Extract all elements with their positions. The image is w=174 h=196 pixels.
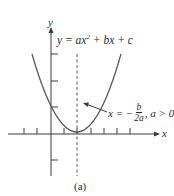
x-axis-label: x	[162, 127, 167, 139]
x-axis-arrow-icon	[154, 132, 160, 137]
equation-label: y = ax2 + bx + c	[57, 33, 133, 46]
fraction-denominator: 2a	[134, 113, 144, 123]
figure-caption: (a)	[74, 180, 86, 192]
fraction: b 2a	[134, 102, 144, 123]
axis-of-symmetry-label: x = − b 2a , a > 0	[108, 102, 174, 123]
annotation-arrowhead-icon	[83, 103, 89, 108]
fraction-numerator: b	[136, 102, 143, 113]
equation-rhs: + bx + c	[90, 34, 133, 46]
annotation-arrow	[86, 104, 107, 112]
axis-label-prefix: x = −	[108, 107, 133, 119]
parabola-diagram	[0, 0, 174, 196]
axis-label-suffix: , a > 0	[145, 107, 174, 119]
y-axis-label: y	[48, 16, 53, 28]
equation-lhs: y = ax	[57, 34, 86, 46]
